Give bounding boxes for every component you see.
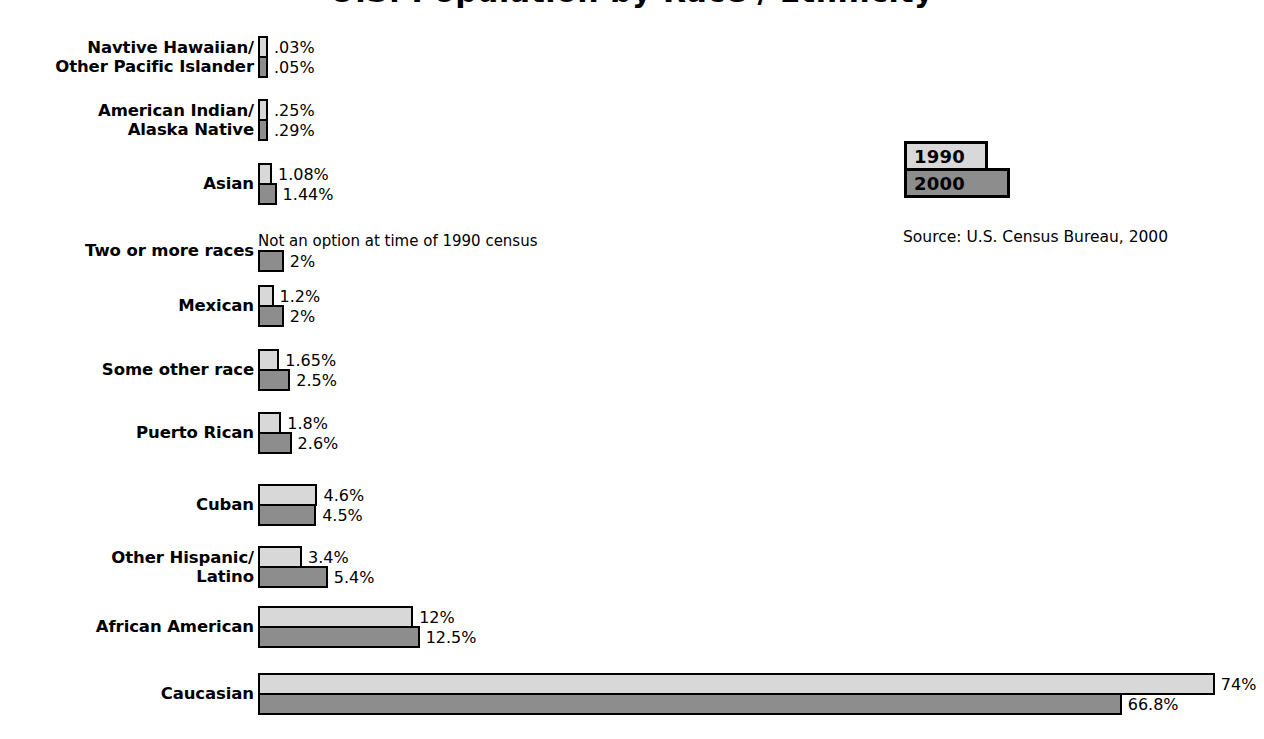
bar-value-2000: 5.4% <box>328 567 375 586</box>
bar-value-2000: .05% <box>268 57 315 76</box>
bar-value-2000: 4.5% <box>316 505 363 524</box>
bar-value-1990: 12% <box>413 608 455 627</box>
bar-2000 <box>258 566 328 588</box>
row-label: Mexican <box>4 296 254 315</box>
bar-value-1990: .03% <box>268 38 315 57</box>
bar-2000 <box>258 56 268 78</box>
bar-value-2000: 12.5% <box>420 627 477 646</box>
legend-label-2000: 2000 <box>907 173 965 194</box>
row-label: Puerto Rican <box>4 423 254 442</box>
bar-2000 <box>258 432 292 454</box>
bar-value-1990: 1.2% <box>274 287 321 306</box>
legend-label-1990: 1990 <box>907 146 965 167</box>
row-label: Other Hispanic/ Latino <box>4 548 254 586</box>
row-label: Two or more races <box>4 241 254 260</box>
row-label: Some other race <box>4 360 254 379</box>
bar-value-1990: 1.65% <box>279 351 336 370</box>
bar-value-1990: 3.4% <box>302 548 349 567</box>
bar-value-1990: 1.8% <box>281 414 328 433</box>
bar-2000 <box>258 119 268 141</box>
bar-value-2000: .29% <box>268 120 315 139</box>
bar-value-2000: 2% <box>284 251 315 270</box>
bar-value-2000: 1.44% <box>277 184 334 203</box>
bar-value-1990: .25% <box>268 101 315 120</box>
row-label: Navtive Hawaiian/ Other Pacific Islander <box>4 38 254 76</box>
bar-value-2000: 2.5% <box>290 370 337 389</box>
bar-2000 <box>258 693 1122 715</box>
bar-value-2000: 66.8% <box>1122 694 1179 713</box>
bar-2000 <box>258 305 284 327</box>
chart-legend: 1990 2000 <box>904 141 1010 198</box>
bar-2000 <box>258 626 420 648</box>
row-label: Cuban <box>4 495 254 514</box>
bar-value-1990: 4.6% <box>317 486 364 505</box>
no-data-note: Not an option at time of 1990 census <box>258 232 538 250</box>
bar-value-2000: 2% <box>284 306 315 325</box>
bar-2000 <box>258 183 277 205</box>
bar-chart: Navtive Hawaiian/ Other Pacific Islander… <box>0 0 1264 739</box>
row-label: American Indian/ Alaska Native <box>4 101 254 139</box>
bar-value-2000: 2.6% <box>292 433 339 452</box>
legend-item-1990: 1990 <box>904 141 988 171</box>
bar-value-1990: 1.08% <box>272 165 329 184</box>
bar-2000 <box>258 369 290 391</box>
bar-2000 <box>258 250 284 272</box>
bar-2000 <box>258 504 316 526</box>
row-label: Asian <box>4 174 254 193</box>
bar-value-1990: 74% <box>1215 675 1257 694</box>
source-note: Source: U.S. Census Bureau, 2000 <box>903 228 1168 246</box>
row-label: Caucasian <box>4 684 254 703</box>
legend-item-2000: 2000 <box>904 168 1010 198</box>
row-label: African American <box>4 617 254 636</box>
